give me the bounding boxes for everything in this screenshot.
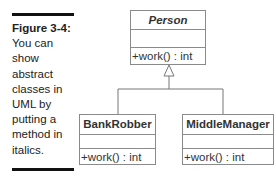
operation: +work() : int (131, 48, 205, 64)
class-name: BankRobber (80, 115, 155, 135)
attributes-compartment (80, 135, 155, 149)
class-bankrobber: BankRobber +work() : int (79, 114, 156, 165)
class-name: Person (131, 11, 205, 30)
generalization-arrow-icon (164, 65, 174, 76)
class-name: MiddleManager (183, 115, 273, 135)
attributes-compartment (183, 135, 273, 149)
operation: +work() : int (80, 149, 155, 164)
operation: +work() : int (183, 149, 273, 164)
class-person: Person +work() : int (130, 10, 206, 65)
class-middlemanager: MiddleManager +work() : int (182, 114, 274, 165)
attributes-compartment (131, 30, 205, 48)
